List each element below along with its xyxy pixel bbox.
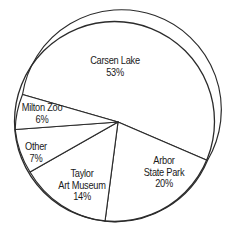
pie-chart: Carsen Lake 53% Arbor State Park 20% Tay… [0, 0, 231, 241]
pie-label-other: Other 7% [6, 141, 66, 164]
pie-label-other-percent: 7% [6, 153, 66, 165]
pie-label-arbor-state-park-name-line1: Arbor [132, 155, 196, 167]
pie-label-arbor-state-park: Arbor State Park 20% [132, 155, 196, 190]
pie-label-taylor-art-museum: Taylor Art Museum 14% [43, 168, 120, 203]
pie-label-milton-zoo-name: Milton Zoo [4, 102, 80, 114]
pie-label-taylor-art-museum-percent: 14% [43, 191, 120, 203]
pie-label-other-name: Other [6, 141, 66, 153]
pie-label-arbor-state-park-percent: 20% [132, 178, 196, 190]
pie-label-carsen-lake-name: Carsen Lake [79, 55, 151, 67]
pie-label-milton-zoo: Milton Zoo 6% [4, 102, 80, 125]
pie-label-carsen-lake-percent: 53% [79, 67, 151, 79]
pie-label-milton-zoo-percent: 6% [4, 114, 80, 126]
pie-label-taylor-art-museum-name-line1: Taylor [43, 168, 120, 180]
pie-label-carsen-lake: Carsen Lake 53% [79, 55, 151, 78]
